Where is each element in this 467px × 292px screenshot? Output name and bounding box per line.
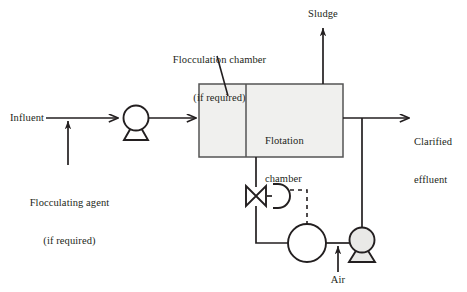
flotation-chamber-label: Flotation chamber xyxy=(265,110,337,210)
flocculating-agent-label-line1: Flocculating agent xyxy=(0,197,139,210)
flotation-chamber-label-line1: Flotation xyxy=(265,135,337,148)
clarified-effluent-label: Clarified effluent xyxy=(414,111,467,211)
feed-pump xyxy=(124,106,149,141)
flotation-chamber-label-line2: chamber xyxy=(265,173,337,186)
flocculation-chamber-label-line1: Flocculation chamber xyxy=(152,54,287,67)
flocculating-agent-label-line2: (if required) xyxy=(0,235,139,248)
pressurized-recycle-stream xyxy=(256,206,288,243)
clarified-effluent-label-line1: Clarified xyxy=(414,136,467,149)
saturation-tank xyxy=(288,224,326,262)
sludge-label: Sludge xyxy=(287,8,359,21)
air-label: Air xyxy=(318,274,358,287)
control-valve xyxy=(246,186,266,206)
flocculation-chamber-label-line2: (if required) xyxy=(152,92,287,105)
flocculating-agent-label: Flocculating agent (if required) xyxy=(0,172,139,272)
influent-label: Influent xyxy=(10,112,44,125)
process-flow-diagram: Influent Flocculating agent (if required… xyxy=(0,0,467,292)
clarified-effluent-label-line2: effluent xyxy=(414,174,467,187)
recycle-pump xyxy=(349,228,375,263)
